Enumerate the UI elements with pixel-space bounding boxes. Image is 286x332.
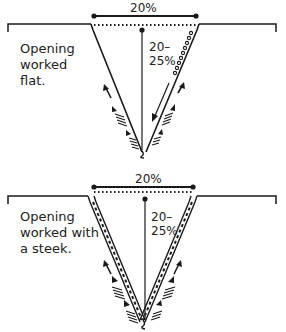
depth-label: 20– 25% [151, 210, 178, 238]
diagram-opening-steek: 20% 20– 25% Opening worked with a steek. [0, 166, 286, 332]
width-label: 20% [130, 1, 157, 15]
caption: Opening worked with a steek. [20, 209, 99, 257]
width-label: 20% [135, 172, 162, 186]
depth-label: 20– 25% [149, 40, 176, 68]
caption: Opening worked flat. [20, 41, 75, 89]
diagram-opening-flat: 20% 20– 25% Opening worked flat. [0, 0, 286, 166]
